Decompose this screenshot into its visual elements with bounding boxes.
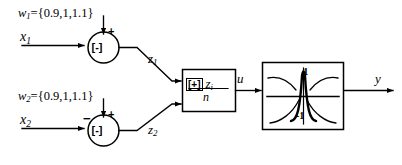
averaging-operator-symbol: [+] (186, 78, 203, 91)
transfer-upper-axis-value: 1 (303, 66, 309, 77)
weight-1-label: w1={0.9,1,1.1} (18, 7, 93, 21)
plot-flank-upper-right (310, 78, 338, 91)
junction-1-plus-sign: + (108, 26, 114, 37)
transfer-lower-axis-value: -1 (296, 111, 304, 121)
weight-2-label: w2={0.9,1,1.1} (18, 90, 93, 104)
signal-z2-label: z2 (148, 123, 157, 138)
plot-flank-upper-left (268, 78, 296, 91)
output-y-label: y (375, 72, 381, 85)
signal-u-label: u (237, 72, 244, 85)
averaging-denominator: n (203, 90, 209, 105)
junction-2-operator: [-] (84, 125, 110, 136)
signal-z1-label: z1 (148, 52, 157, 67)
averaging-numerator-variable: zi (206, 76, 214, 91)
junction-1-operator: [-] (84, 42, 110, 53)
input-2-minus-sign: − (83, 112, 91, 125)
junction-2-plus-sign: + (108, 109, 114, 120)
block-diagram: w1={0.9,1,1.1} w2={0.9,1,1.1} x1 x2 + + … (0, 0, 402, 165)
plot-flank-lower-right (307, 100, 336, 123)
input-1-label: x1 (20, 30, 31, 46)
input-2-label: x2 (20, 113, 31, 129)
